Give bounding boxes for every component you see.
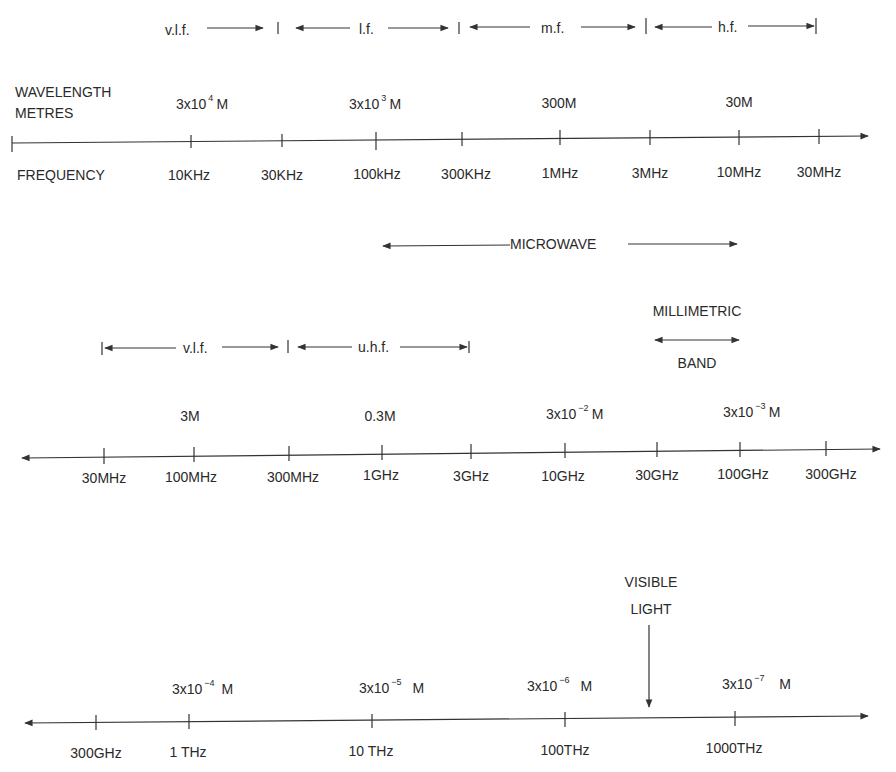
frequency-tick-label: 3GHz — [453, 468, 489, 484]
wavelength-value: 3x10−3M — [723, 404, 780, 420]
wavelength-value: 3x104M — [176, 96, 228, 112]
wavelength-value: 3x10−4 M — [172, 681, 233, 697]
frequency-tick-label: 30MHz — [82, 470, 126, 486]
frequency-tick-label: 100GHz — [717, 466, 768, 482]
frequency-tick-label: 30KHz — [261, 167, 303, 183]
section1-axis — [12, 129, 868, 152]
microwave-label: MICROWAVE — [510, 236, 596, 252]
spectrum-diagram-lines — [0, 0, 896, 772]
frequency-tick-label: 30GHz — [635, 467, 679, 483]
wavelength-value: 0.3M — [364, 408, 395, 424]
frequency-tick-label: 100MHz — [165, 469, 217, 485]
section2-band-arrows — [102, 340, 469, 355]
frequency-tick-label: 300GHz — [70, 745, 121, 761]
frequency-tick-label: 30MHz — [797, 164, 841, 180]
frequency-tick-label: 1 THz — [169, 744, 206, 760]
band-label-vlf: v.l.f. — [165, 22, 190, 38]
band-label-vlf: v.l.f. — [183, 340, 208, 356]
wavelength-value: 300M — [541, 95, 576, 111]
frequency-tick-label: 100THz — [540, 742, 589, 758]
band-label-lf: l.f. — [359, 21, 374, 37]
frequency-tick-label: 300GHz — [805, 466, 856, 482]
wavelength-value: 3x10−6 M — [527, 678, 592, 694]
wavelength-value: 30M — [725, 94, 752, 110]
wavelength-value: 3x10−2M — [546, 406, 603, 422]
frequency-tick-label: 300MHz — [267, 469, 319, 485]
band-label-hf: h.f. — [718, 19, 737, 35]
frequency-tick-label: 1GHz — [363, 467, 399, 483]
frequency-tick-label: 10 THz — [349, 743, 394, 759]
wavelength-value: 3x103M — [349, 96, 401, 112]
wavelength-value: 3x10−7 M — [722, 676, 791, 692]
band-label: BAND — [678, 355, 717, 371]
visible-light-label: LIGHT — [630, 601, 671, 617]
millimetric-label: MILLIMETRIC — [653, 303, 742, 319]
band-label-uhf: u.h.f. — [358, 339, 389, 355]
band-label-mf: m.f. — [541, 20, 564, 36]
frequency-axis-title: FREQUENCY — [17, 167, 105, 183]
frequency-tick-label: 1000THz — [706, 740, 763, 756]
frequency-tick-label: 10KHz — [168, 167, 210, 183]
wavelength-axis-unit: METRES — [15, 105, 73, 121]
wavelength-value: 3x10−5 M — [359, 680, 424, 696]
frequency-tick-label: 10GHz — [541, 468, 585, 484]
section3-axis — [25, 711, 868, 730]
frequency-tick-label: 1MHz — [542, 165, 579, 181]
wavelength-axis-title: WAVELENGTH — [15, 84, 111, 100]
section2-axis — [22, 441, 880, 464]
visible-light-label: VISIBLE — [625, 574, 678, 590]
frequency-tick-label: 10MHz — [717, 164, 761, 180]
frequency-tick-label: 3MHz — [632, 165, 669, 181]
frequency-tick-label: 300KHz — [441, 166, 491, 182]
wavelength-value: 3M — [180, 408, 199, 424]
frequency-tick-label: 100kHz — [353, 166, 400, 182]
